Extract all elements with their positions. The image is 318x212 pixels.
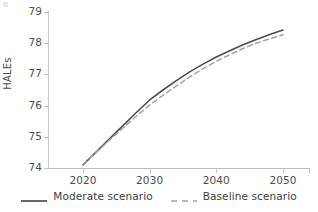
x-tick-mark	[150, 168, 151, 173]
x-tick-mark	[83, 168, 84, 173]
y-tick-label: 75	[18, 130, 42, 142]
y-tick-label: 74	[18, 161, 42, 173]
x-tick-mark-end	[309, 168, 310, 173]
chart-legend: Moderate scenarioBaseline scenario	[0, 190, 318, 202]
legend-label: Baseline scenario	[203, 190, 297, 202]
y-tick-mark	[44, 168, 49, 169]
y-tick-label: 78	[18, 36, 42, 48]
y-tick-label: 79	[18, 5, 42, 17]
y-axis-title: HALEs	[2, 44, 13, 104]
series-line-baseline-scenario	[83, 35, 283, 165]
plot-area	[48, 12, 310, 168]
legend-label: Moderate scenario	[53, 190, 152, 202]
legend-entry[interactable]: Baseline scenario	[171, 190, 297, 202]
x-tick-label: 2020	[61, 174, 105, 186]
legend-entry[interactable]: Moderate scenario	[21, 190, 152, 202]
y-tick-label: 77	[18, 67, 42, 79]
chart-figure: HALEs 747576777879 2020203020402050 Mode…	[0, 0, 318, 212]
legend-swatch-dashed	[171, 191, 197, 201]
x-tick-label: 2040	[194, 174, 238, 186]
x-tick-label: 2050	[261, 174, 305, 186]
x-tick-mark	[216, 168, 217, 173]
series-line-moderate-scenario	[83, 30, 283, 165]
corner-artifact	[3, 2, 8, 7]
x-axis-spine	[48, 168, 310, 169]
x-tick-label: 2030	[128, 174, 172, 186]
legend-swatch-solid	[21, 191, 47, 201]
x-tick-mark	[283, 168, 284, 173]
series-lines	[48, 12, 310, 168]
y-tick-label: 76	[18, 99, 42, 111]
